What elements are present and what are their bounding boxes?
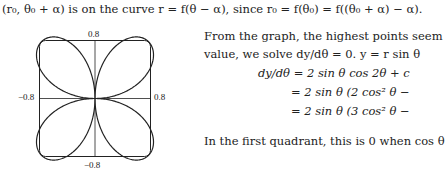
text-line-solve-derivative: value, we solve dy/dθ = 0. y = r sin θ — [204, 47, 420, 61]
text-line-graph-observation: From the graph, the highest points seem — [204, 29, 443, 43]
tick-label-left: −0.8 — [18, 92, 34, 102]
equation-line-2: = 2 sin θ (2 cos² θ − — [291, 85, 410, 99]
equation-line-3: = 2 sin θ (3 cos² θ − — [291, 104, 410, 118]
tick-label-top: 0.8 — [88, 29, 99, 39]
text-line-first-quadrant: In the first quadrant, this is 0 when co… — [204, 134, 445, 148]
tick-label-bottom: −0.8 — [84, 160, 100, 170]
text-line-curve-statement: (r₀, θ₀ + α) is on the curve r = f(θ − α… — [2, 2, 422, 16]
equation-line-1: dy/dθ = 2 sin θ cos 2θ + c — [258, 66, 410, 80]
polar-graph-figure: 0.8 −0.8 −0.8 0.8 — [0, 25, 200, 172]
tick-label-right: 0.8 — [154, 92, 165, 102]
